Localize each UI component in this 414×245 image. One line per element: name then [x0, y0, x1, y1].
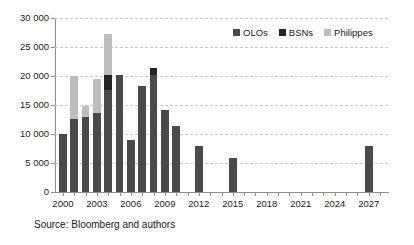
y-axis-tick-label: 25 000: [0, 42, 49, 52]
legend-label: OLOs: [243, 27, 268, 38]
y-axis-tick: [51, 18, 55, 19]
x-axis-tick: [323, 192, 324, 196]
bar-segment-olos: [150, 75, 158, 192]
y-axis-tick: [51, 105, 55, 106]
y-axis-tick: [51, 134, 55, 135]
legend-label: BSNs: [289, 27, 313, 38]
bar-stack: [70, 76, 78, 192]
bar-segment-philippes: [93, 79, 101, 113]
bar-stack: [172, 126, 180, 192]
x-axis-tick: [142, 192, 143, 196]
x-axis-tick: [301, 192, 302, 196]
gridline: [55, 18, 388, 19]
bar-segment-philippes: [104, 34, 112, 75]
x-axis-tick: [312, 192, 313, 196]
bar-segment-olos: [127, 140, 135, 192]
bar-stack: [104, 34, 112, 192]
bar-segment-bsns: [104, 75, 112, 90]
y-axis-tick: [51, 163, 55, 164]
bar-segment-olos: [59, 134, 67, 192]
x-axis-tick: [176, 192, 177, 196]
x-axis-tick: [369, 192, 370, 196]
x-axis-tick: [188, 192, 189, 196]
bar-stack: [161, 110, 169, 192]
x-axis-tick: [335, 192, 336, 196]
y-axis-tick-label: 5 000: [0, 158, 49, 168]
x-axis-tick: [233, 192, 234, 196]
plot-area: [55, 18, 388, 192]
bar-segment-philippes: [70, 76, 78, 119]
bar-segment-olos: [161, 110, 169, 192]
x-axis-tick: [289, 192, 290, 196]
chart-figure: 05 00010 00015 00020 00025 00030 000 200…: [0, 0, 414, 245]
y-axis-tick-label: 15 000: [0, 100, 49, 110]
legend-swatch-icon: [324, 29, 331, 36]
bar-stack: [229, 158, 237, 193]
source-note: Source: Bloomberg and authors: [34, 219, 175, 230]
bar-stack: [365, 146, 373, 192]
chart-legend: OLOsBSNsPhilippes: [233, 27, 373, 38]
x-axis-tick-label: 2027: [347, 199, 391, 209]
x-axis-tick: [222, 192, 223, 196]
bar-segment-olos: [116, 75, 124, 192]
y-axis-tick: [51, 192, 55, 193]
x-axis-tick: [131, 192, 132, 196]
x-axis-tick: [380, 192, 381, 196]
bar-segment-olos: [195, 146, 203, 192]
y-axis-tick-label: 20 000: [0, 71, 49, 81]
bar-segment-philippes: [82, 106, 90, 117]
x-axis-tick: [199, 192, 200, 196]
x-axis-tick: [346, 192, 347, 196]
bar-segment-olos: [172, 126, 180, 192]
x-axis-tick: [74, 192, 75, 196]
bar-segment-olos: [229, 158, 237, 193]
bar-segment-olos: [138, 86, 146, 192]
bar-segment-olos: [104, 90, 112, 192]
x-axis-tick: [63, 192, 64, 196]
bar-segment-olos: [93, 113, 101, 192]
bar-stack: [82, 106, 90, 192]
legend-label: Philippes: [334, 27, 373, 38]
legend-swatch-icon: [233, 29, 240, 36]
x-axis-tick: [120, 192, 121, 196]
bar-stack: [116, 75, 124, 192]
bar-segment-olos: [70, 119, 78, 192]
legend-item-philippes: Philippes: [324, 27, 373, 38]
x-axis-tick: [154, 192, 155, 196]
x-axis-tick: [244, 192, 245, 196]
y-axis-tick: [51, 76, 55, 77]
x-axis-tick: [255, 192, 256, 196]
y-axis-tick-label: 0: [0, 187, 49, 197]
bar-stack: [150, 68, 158, 192]
x-axis-tick: [357, 192, 358, 196]
legend-item-bsns: BSNs: [279, 27, 313, 38]
bar-segment-olos: [365, 146, 373, 192]
x-axis-tick: [86, 192, 87, 196]
bar-stack: [195, 146, 203, 192]
x-axis-tick: [97, 192, 98, 196]
legend-swatch-icon: [279, 29, 286, 36]
bar-stack: [59, 134, 67, 192]
x-axis-tick: [267, 192, 268, 196]
bar-stack: [127, 140, 135, 192]
bar-segment-olos: [82, 117, 90, 192]
y-axis-tick: [51, 47, 55, 48]
bar-stack: [93, 79, 101, 192]
y-axis-tick-label: 30 000: [0, 13, 49, 23]
x-axis-tick: [210, 192, 211, 196]
bar-stack: [138, 86, 146, 192]
x-axis-tick: [108, 192, 109, 196]
x-axis-tick: [278, 192, 279, 196]
legend-item-olos: OLOs: [233, 27, 268, 38]
x-axis-tick: [165, 192, 166, 196]
y-axis-tick-label: 10 000: [0, 129, 49, 139]
bar-segment-bsns: [150, 68, 158, 75]
